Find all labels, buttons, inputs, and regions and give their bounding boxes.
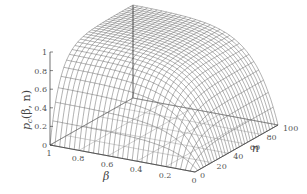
beta-tick-label: 0.2 bbox=[159, 171, 172, 180]
y-axis-label: n bbox=[252, 142, 259, 155]
z-axis-label: pc(β, n) bbox=[20, 90, 34, 130]
mesh-line bbox=[190, 107, 273, 171]
floor-grid-line bbox=[108, 109, 191, 156]
mesh-line bbox=[61, 76, 206, 165]
beta-tick-label: 0.4 bbox=[130, 165, 143, 174]
beta-tick-label: 0.8 bbox=[72, 154, 85, 163]
n-tick-label: 40 bbox=[233, 152, 243, 161]
n-tick-label: 20 bbox=[217, 162, 227, 171]
z-tick-label: 1 bbox=[42, 48, 47, 57]
n-tick-label: 0 bbox=[200, 171, 205, 180]
z-tick-label: 0.8 bbox=[34, 67, 47, 76]
z-tick-label: 0.2 bbox=[34, 122, 47, 131]
beta-tick-label: 0.6 bbox=[101, 160, 114, 169]
surface-plot: 00.20.40.60.8110.80.60.40.20020406080100… bbox=[0, 0, 307, 194]
z-tick-label: 0.4 bbox=[34, 104, 47, 113]
floor-grid-line bbox=[67, 136, 212, 163]
mesh-line bbox=[181, 80, 264, 169]
beta-tick-label: 1 bbox=[46, 149, 51, 158]
x-axis-label: β bbox=[102, 170, 109, 183]
surface-mesh bbox=[50, 5, 278, 172]
mesh-line bbox=[67, 60, 212, 163]
beta-tick-label: 0 bbox=[191, 176, 196, 185]
mesh-line bbox=[161, 49, 244, 166]
floor-grid-line bbox=[133, 98, 278, 125]
n-tick-label: 80 bbox=[266, 133, 276, 142]
z-tick-label: 0.6 bbox=[34, 85, 47, 94]
mesh-line bbox=[69, 54, 214, 161]
n-tick-label: 100 bbox=[283, 124, 298, 133]
floor-grid-line bbox=[100, 117, 245, 144]
